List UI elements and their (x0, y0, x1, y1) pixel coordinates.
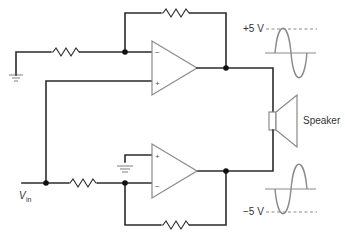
opamp-top: − + (152, 41, 197, 95)
negative-swing-label: −5 V (243, 206, 264, 217)
ground-symbol-top (9, 75, 23, 81)
wire-feedback-bottom-right (190, 171, 226, 225)
wire-ground-to-input-resistor (16, 52, 50, 75)
waveform-top: +5 V (243, 23, 317, 78)
opamp-top-inverting-sign: − (155, 48, 160, 57)
junction-node (43, 180, 49, 186)
ground-symbol-bottom (117, 166, 133, 172)
junction-node (223, 65, 229, 71)
circuit-diagram: − + Speaker V in + − +5 V (0, 0, 345, 241)
junction-node (122, 180, 128, 186)
positive-swing-label: +5 V (243, 23, 264, 34)
wire-output-top (197, 68, 273, 112)
opamp-bottom: + − (152, 144, 197, 198)
opamp-bottom-inverting-sign: − (155, 182, 160, 191)
junction-node (122, 49, 128, 55)
opamp-bottom-noninverting-sign: + (155, 152, 160, 161)
speaker-label: Speaker (303, 115, 341, 126)
resistor-feedback-bottom (160, 221, 190, 229)
waveform-bottom: −5 V (243, 164, 317, 217)
wire-feedback-top-right (190, 13, 226, 68)
resistor-input-top (50, 48, 80, 56)
wire-noninverting-bottom (125, 155, 152, 162)
junction-node (223, 168, 229, 174)
wire-output-bottom (197, 130, 273, 171)
resistor-input-bottom (68, 179, 98, 187)
resistor-feedback-top (160, 9, 190, 17)
opamp-top-noninverting-sign: + (155, 79, 160, 88)
vin-subscript: in (26, 196, 32, 203)
wire-noninverting-top (46, 81, 152, 183)
